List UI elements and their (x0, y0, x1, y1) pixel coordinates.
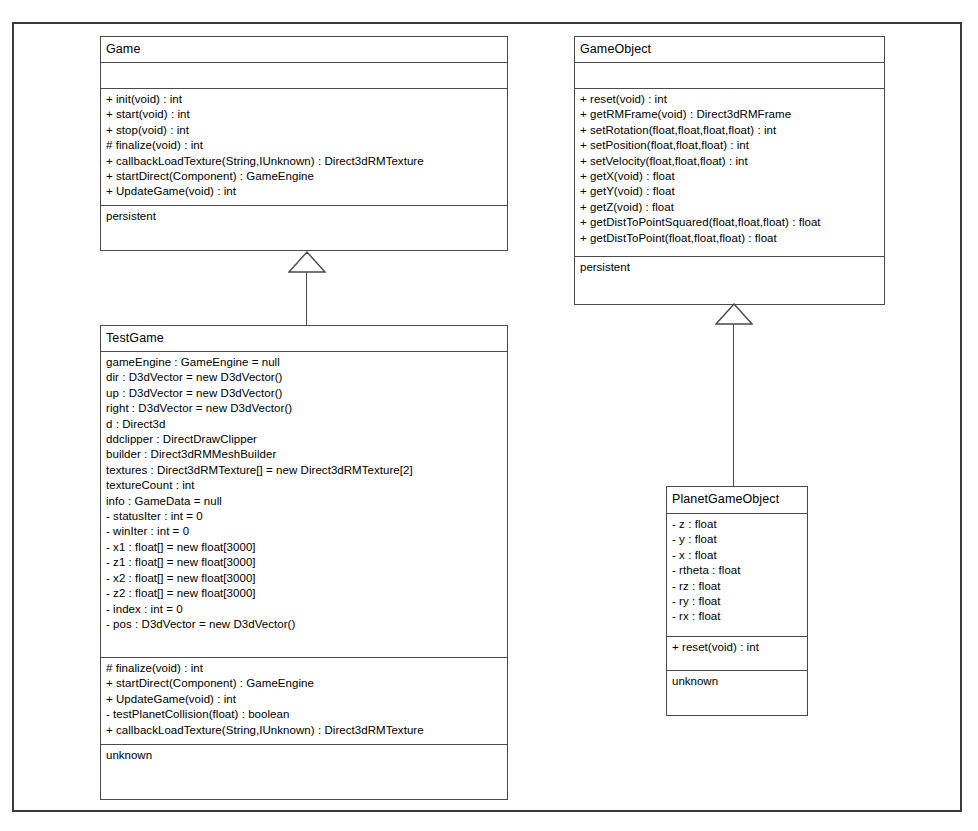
class-name-label: Game (106, 40, 503, 58)
operation-list: + reset(void) : int (672, 640, 803, 655)
operation-item: + reset(void) : int (580, 92, 880, 107)
operations-compartment: + reset(void) : int (667, 637, 807, 671)
operation-item: + startDirect(Component) : GameEngine (106, 676, 503, 691)
operation-item: - testPlanetCollision(float) : boolean (106, 707, 503, 722)
attribute-item: up : D3dVector = new D3dVector() (106, 386, 503, 401)
attribute-item: d : Direct3d (106, 417, 503, 432)
attribute-item: ddclipper : DirectDrawClipper (106, 432, 503, 447)
class-name-compartment: PlanetGameObject (667, 487, 807, 514)
attribute-item: right : D3dVector = new D3dVector() (106, 401, 503, 416)
stereotype-label: persistent (580, 260, 880, 275)
operation-item: # finalize(void) : int (106, 138, 503, 153)
operation-item: + stop(void) : int (106, 123, 503, 138)
attributes-compartment: - z : float - y : float - x : float - rt… (667, 514, 807, 637)
class-name-label: TestGame (106, 329, 503, 347)
attributes-compartment (101, 63, 507, 89)
generalization-line-game (306, 272, 307, 326)
operation-item: + UpdateGame(void) : int (106, 184, 503, 199)
class-name-compartment: GameObject (575, 37, 884, 63)
class-name-label: GameObject (580, 40, 880, 58)
operation-item: + getDistToPoint(float,float,float) : fl… (580, 231, 880, 246)
operation-item: + callbackLoadTexture(String,IUnknown) :… (106, 154, 503, 169)
operation-item: + getZ(void) : float (580, 200, 880, 215)
operation-list: + reset(void) : int + getRMFrame(void) :… (580, 92, 880, 246)
attribute-list: gameEngine : GameEngine = null dir : D3d… (106, 355, 503, 632)
stereotype-compartment: unknown (667, 671, 807, 715)
operations-compartment: # finalize(void) : int + startDirect(Com… (101, 658, 507, 745)
attribute-item: - x : float (672, 548, 803, 563)
attribute-item: gameEngine : GameEngine = null (106, 355, 503, 370)
operations-compartment: + reset(void) : int + getRMFrame(void) :… (575, 89, 884, 257)
generalization-line-gameobject (733, 324, 734, 487)
operation-item: + callbackLoadTexture(String,IUnknown) :… (106, 723, 503, 738)
attribute-item: - ry : float (672, 594, 803, 609)
generalization-arrowhead-gameobject (715, 303, 753, 325)
operation-list: + init(void) : int + start(void) : int +… (106, 92, 503, 200)
attribute-item: textures : Direct3dRMTexture[] = new Dir… (106, 463, 503, 478)
stereotype-label: unknown (672, 674, 803, 689)
uml-class-gameobject[interactable]: GameObject + reset(void) : int + getRMFr… (574, 36, 885, 305)
class-name-compartment: Game (101, 37, 507, 63)
operation-item: + reset(void) : int (672, 640, 803, 655)
attribute-item: - index : int = 0 (106, 602, 503, 617)
attribute-item: builder : Direct3dRMMeshBuilder (106, 447, 503, 462)
attributes-compartment (575, 63, 884, 89)
operation-item: + init(void) : int (106, 92, 503, 107)
attribute-item: - x1 : float[] = new float[3000] (106, 540, 503, 555)
class-name-label: PlanetGameObject (672, 490, 803, 508)
operation-item: + setPosition(float,float,float) : int (580, 138, 880, 153)
stereotype-label: persistent (106, 209, 503, 224)
attribute-item: - rtheta : float (672, 563, 803, 578)
attribute-item: - y : float (672, 532, 803, 547)
generalization-arrowhead-game (288, 251, 326, 273)
uml-class-game[interactable]: Game + init(void) : int + start(void) : … (100, 36, 508, 251)
attribute-item: - pos : D3dVector = new D3dVector() (106, 617, 503, 632)
attribute-list: - z : float - y : float - x : float - rt… (672, 517, 803, 625)
operation-list: # finalize(void) : int + startDirect(Com… (106, 661, 503, 738)
attribute-item: dir : D3dVector = new D3dVector() (106, 370, 503, 385)
diagram-canvas: Game + init(void) : int + start(void) : … (0, 0, 978, 831)
attribute-item: - rx : float (672, 609, 803, 624)
attribute-item: - z1 : float[] = new float[3000] (106, 555, 503, 570)
uml-class-testgame[interactable]: TestGame gameEngine : GameEngine = null … (100, 325, 508, 800)
stereotype-compartment: unknown (101, 745, 507, 799)
operation-item: + getDistToPointSquared(float,float,floa… (580, 215, 880, 230)
operation-item: + getRMFrame(void) : Direct3dRMFrame (580, 107, 880, 122)
operation-item: + startDirect(Component) : GameEngine (106, 169, 503, 184)
uml-class-planetgameobject[interactable]: PlanetGameObject - z : float - y : float… (666, 486, 808, 716)
stereotype-label: unknown (106, 748, 503, 763)
class-name-compartment: TestGame (101, 326, 507, 352)
operation-item: + setVelocity(float,float,float) : int (580, 154, 880, 169)
attribute-item: - rz : float (672, 579, 803, 594)
operation-item: # finalize(void) : int (106, 661, 503, 676)
operation-item: + setRotation(float,float,float,float) :… (580, 123, 880, 138)
operation-item: + UpdateGame(void) : int (106, 692, 503, 707)
stereotype-compartment: persistent (575, 257, 884, 304)
operations-compartment: + init(void) : int + start(void) : int +… (101, 89, 507, 206)
attribute-item: textureCount : int (106, 478, 503, 493)
attribute-item: - z2 : float[] = new float[3000] (106, 586, 503, 601)
attribute-item: - z : float (672, 517, 803, 532)
operation-item: + getY(void) : float (580, 184, 880, 199)
attribute-item: - winIter : int = 0 (106, 524, 503, 539)
attributes-compartment: gameEngine : GameEngine = null dir : D3d… (101, 352, 507, 658)
attribute-item: - statusIter : int = 0 (106, 509, 503, 524)
attribute-item: info : GameData = null (106, 494, 503, 509)
attribute-item: - x2 : float[] = new float[3000] (106, 571, 503, 586)
stereotype-compartment: persistent (101, 206, 507, 250)
operation-item: + start(void) : int (106, 107, 503, 122)
operation-item: + getX(void) : float (580, 169, 880, 184)
